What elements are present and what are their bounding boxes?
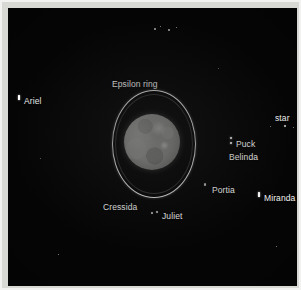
star-marker [284,125,286,127]
label-ariel: Ariel [24,96,42,106]
astronomy-figure: Epsilon ring Ariel star Puck Belinda Por… [0,0,301,290]
background-star-8 [40,158,41,159]
miranda-marker [258,192,260,197]
background-star-3 [176,27,177,28]
background-star-6 [58,254,59,255]
background-star-7 [276,246,277,247]
label-juliet: Juliet [162,211,182,221]
uranus-disk [124,114,180,170]
background-star-4 [270,126,271,127]
label-epsilon-ring: Epsilon ring [112,79,158,89]
juliet-marker-2 [156,211,158,213]
background-star-5 [293,127,294,128]
label-miranda: Miranda [264,193,295,203]
sky-plate: Epsilon ring Ariel star Puck Belinda Por… [8,8,297,286]
label-belinda: Belinda [229,152,258,162]
label-portia: Portia [212,185,235,195]
puck-marker [230,137,232,139]
background-star-1 [160,26,161,27]
background-star-2 [168,29,170,31]
background-star-0 [154,28,156,30]
belinda-marker [230,142,232,144]
ariel-marker [18,95,20,100]
label-puck: Puck [236,139,255,149]
juliet-marker [151,212,153,214]
background-star-9 [218,68,219,69]
label-cressida: Cressida [103,202,137,212]
portia-marker [204,183,206,186]
label-star: star [275,113,290,123]
figure-frame: Epsilon ring Ariel star Puck Belinda Por… [2,2,299,288]
uranus-cloud-features [124,114,180,170]
